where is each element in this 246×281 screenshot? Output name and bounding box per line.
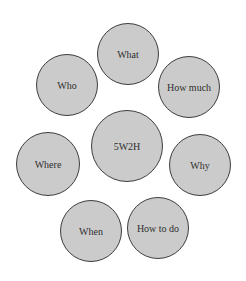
5w2h-diagram: 5W2H What Who How much Where Why When Ho…	[0, 0, 246, 281]
node-why: Why	[169, 134, 231, 196]
node-how-much: How much	[158, 56, 220, 118]
node-what: What	[97, 23, 159, 85]
node-where: Where	[16, 132, 80, 196]
node-how-to-do: How to do	[127, 197, 189, 259]
node-when: When	[60, 200, 122, 262]
center-node-5w2h: 5W2H	[91, 110, 163, 182]
node-who: Who	[36, 54, 98, 116]
